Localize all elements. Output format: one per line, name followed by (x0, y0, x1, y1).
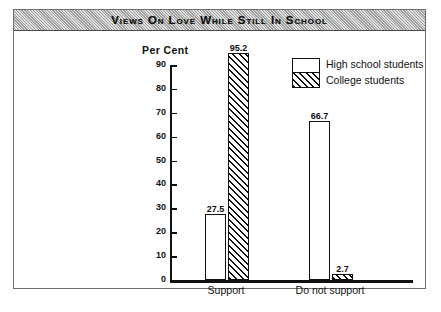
y-axis-tick: 30 (170, 208, 177, 210)
y-axis-tick-mark (170, 65, 177, 67)
bar-value-label: 2.7 (336, 264, 349, 274)
legend-label-list: High school students College students (326, 57, 423, 87)
bar-value-label: 95.2 (230, 43, 248, 53)
y-axis-tick-label: 90 (156, 59, 166, 69)
y-axis-tick: 10 (170, 256, 177, 258)
y-axis-tick-mark (170, 161, 177, 163)
y-axis-tick-mark (170, 137, 177, 139)
y-axis-tick-label: 30 (156, 202, 166, 212)
x-axis-category-label: Do not support (296, 284, 365, 296)
bar: 66.7 (309, 121, 330, 280)
y-axis-tick-label: 60 (156, 131, 166, 141)
x-axis-category-label: Support (208, 284, 245, 296)
x-axis-line (170, 280, 413, 283)
page-title: Views on Love While Still in School (111, 14, 328, 26)
chart-title-banner: Views on Love While Still in School (14, 10, 425, 31)
y-axis-title: Per Cent (142, 44, 188, 56)
white-box-icon (293, 59, 319, 73)
y-axis-tick-mark (170, 89, 177, 91)
y-axis-tick: 80 (170, 89, 177, 91)
y-axis-tick-mark (170, 208, 177, 210)
y-axis-line (170, 65, 172, 282)
bar-value-label: 27.5 (207, 204, 225, 214)
legend-swatch-box (292, 58, 320, 88)
y-axis-tick: 70 (170, 113, 177, 115)
legend-item-high-school: High school students (326, 57, 423, 71)
y-axis-tick: 20 (170, 232, 177, 234)
y-axis-tick-label: 70 (156, 107, 166, 117)
bar: 27.5 (205, 214, 226, 280)
plot-area: Per Cent 0102030405060708090 27.595.266.… (14, 31, 425, 288)
y-axis-tick: 90 (170, 65, 177, 67)
figure-frame: Views on Love While Still in School Per … (13, 9, 426, 289)
bar-value-label: 66.7 (311, 111, 329, 121)
bar: 2.7 (332, 274, 353, 280)
y-axis-tick-mark (170, 113, 177, 115)
y-axis-tick-mark (170, 232, 177, 234)
bar: 95.2 (228, 53, 249, 280)
y-axis-tick: 40 (170, 184, 177, 186)
y-axis-tick: 0 (170, 280, 177, 282)
y-axis-tick-mark (170, 256, 177, 258)
y-axis-tick-label: 0 (161, 274, 166, 284)
y-axis-tick-mark (170, 184, 177, 186)
figure-page: Views on Love While Still in School Per … (0, 0, 441, 312)
y-axis-tick-label: 50 (156, 155, 166, 165)
y-axis-tick: 50 (170, 161, 177, 163)
y-axis-tick-label: 40 (156, 178, 166, 188)
y-axis-tick-label: 10 (156, 250, 166, 260)
y-axis-tick: 60 (170, 137, 177, 139)
y-axis-tick-label: 80 (156, 83, 166, 93)
y-axis-tick-label: 20 (156, 226, 166, 236)
hatched-box-icon (293, 73, 319, 87)
y-axis-tick-mark (170, 280, 177, 282)
legend-item-college: College students (326, 73, 423, 87)
